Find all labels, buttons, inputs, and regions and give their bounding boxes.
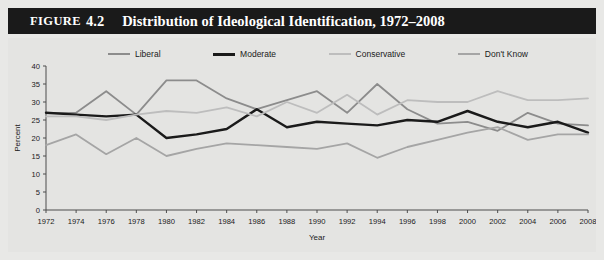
y-axis-tick-label: 0 [36,206,40,215]
x-axis-tick-label: 1998 [429,217,446,226]
y-axis-tick-label: 20 [32,134,40,143]
x-axis-tick-label: 2004 [519,217,536,226]
x-axis-title: Year [309,233,326,242]
x-axis-tick-label: 1982 [188,217,205,226]
x-axis-tick-label: 1976 [98,217,115,226]
x-axis-tick-label: 2008 [580,217,596,226]
y-axis-tick-label: 5 [36,188,40,197]
y-axis-tick-label: 30 [32,98,40,107]
figure-container: Figure 4.2 Distribution of Ideological I… [0,0,604,260]
x-axis-tick-label: 2006 [549,217,566,226]
series-line-don-t-know [46,127,588,158]
figure-number: 4.2 [86,13,104,30]
x-axis-tick-label: 1990 [309,217,326,226]
y-axis-tick-label: 35 [32,80,40,89]
x-axis-tick-label: 1994 [369,217,386,226]
x-axis-tick-label: 1974 [68,217,85,226]
line-chart-svg: 0510152025303540 19721974197619781980198… [8,38,596,252]
x-axis-tick-label: 1986 [248,217,265,226]
figure-label: Figure [30,14,81,29]
chart-series-group [46,80,588,157]
x-axis-tick-label: 1984 [218,217,235,226]
y-axis-tick-label: 40 [32,62,40,71]
y-axis-title: Percent [13,123,22,151]
y-axis-tick-label: 15 [32,152,40,161]
x-axis-tick-label: 2002 [489,217,506,226]
x-axis: 1972197419761978198019821984198619881990… [38,210,596,226]
figure-title-bar: Figure 4.2 Distribution of Ideological I… [8,8,596,34]
x-axis-tick-label: 1972 [38,217,55,226]
y-axis: 0510152025303540 [32,62,46,215]
series-line-conservative [46,91,588,120]
y-axis-tick-label: 25 [32,116,40,125]
figure-title-text: Distribution of Ideological Identificati… [122,13,445,30]
x-axis-tick-label: 1978 [128,217,145,226]
x-axis-tick-label: 1988 [278,217,295,226]
x-axis-tick-label: 2000 [459,217,476,226]
y-axis-tick-label: 10 [32,170,40,179]
x-axis-tick-label: 1980 [158,217,175,226]
x-axis-tick-label: 1992 [339,217,356,226]
chart-panel: Liberal Moderate Conservative Don't Know… [8,38,596,252]
x-axis-tick-label: 1996 [399,217,416,226]
